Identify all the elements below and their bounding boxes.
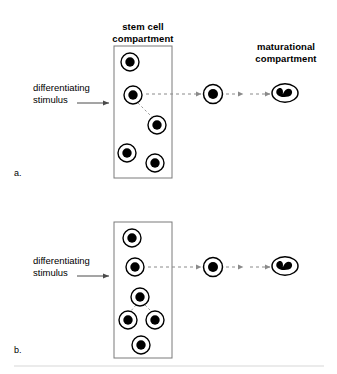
lineage-connector-b-2	[145, 305, 152, 312]
stem-cell-a-1	[121, 53, 139, 71]
stem-cell-b-3	[131, 288, 149, 306]
panel-b	[77, 222, 298, 358]
transit-cell-b	[204, 258, 223, 277]
stem-cell-a-5	[146, 154, 164, 172]
stem-cell-b-5	[146, 311, 164, 329]
stem-cell-a-2	[124, 86, 142, 104]
mature-cell-a	[272, 84, 298, 102]
stem-cell-b-4	[119, 311, 137, 329]
stem-cell-a-3	[148, 116, 166, 134]
lineage-connector-a-1	[138, 103, 152, 117]
panel-a	[77, 46, 298, 178]
figure-canvas: stem cell compartment maturational compa…	[0, 0, 337, 374]
stem-cell-a-4	[118, 144, 136, 162]
diagram-svg	[0, 0, 337, 374]
transit-cell-a	[204, 85, 223, 104]
stem-cell-b-2	[126, 258, 144, 276]
stem-cell-b-6	[132, 336, 150, 354]
mature-cell-b	[272, 257, 298, 275]
stem-cell-b-1	[123, 229, 141, 247]
